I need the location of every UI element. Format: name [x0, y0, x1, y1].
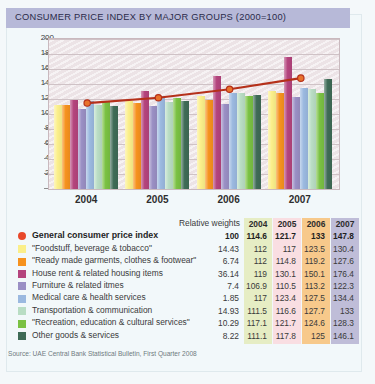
row-value-2006: 127.7 [302, 305, 330, 317]
bar-sheen [165, 102, 173, 189]
table-row: House rent & related housing items36.141… [8, 268, 352, 280]
row-value-2005: 123.4 [273, 292, 301, 304]
row-relative-weight: 10.29 [198, 317, 244, 329]
bar-sheen [181, 101, 189, 189]
row-relative-weight: 36.14 [198, 268, 244, 280]
column-header-2004: 2004 [244, 218, 272, 230]
bar-2004-series-7 [110, 106, 118, 189]
row-value-2006: 133 [302, 230, 330, 242]
table-header-row: Relative weights 2004 2005 2006 2007 [8, 218, 352, 230]
row-value-2006: 150.1 [302, 268, 330, 280]
row-value-2006: 113.2 [302, 280, 330, 292]
row-value-2005: 117 [273, 243, 301, 255]
bar-2007-series-1 [276, 93, 284, 189]
row-relative-weight: 14.93 [198, 305, 244, 317]
bar-2006-series-0 [197, 96, 205, 189]
bar-sheen [308, 89, 316, 189]
row-label: "Recreation, education & cultural servic… [32, 317, 190, 327]
bar-group-2006 [197, 39, 263, 189]
bar-2006-series-1 [205, 100, 213, 189]
bar-2005-series-5 [165, 102, 173, 189]
row-value-2006: 127.5 [302, 292, 330, 304]
bar-2006-series-6 [245, 96, 253, 189]
cpi-bar-chart: 020406080100120140160180200 200420052006… [8, 34, 350, 214]
row-value-2004: 112 [244, 255, 272, 267]
bar-2004-series-0 [54, 105, 62, 189]
bar-2006-series-3 [221, 104, 229, 189]
bar-2004-series-3 [78, 109, 86, 189]
bar-2005-series-7 [181, 101, 189, 189]
x-tick-label-2007: 2007 [270, 194, 330, 205]
row-value-2007: 133 [331, 305, 359, 317]
source-note: Source: UAE Central Bank Statistical Bul… [8, 350, 197, 357]
bar-2006-series-2 [213, 76, 221, 189]
bar-sheen [70, 100, 78, 189]
row-value-2005: 121.7 [273, 230, 301, 242]
row-value-2004: 114.6 [244, 230, 272, 242]
bar-2004-series-5 [94, 105, 102, 189]
row-label: Other goods & services [32, 330, 119, 340]
row-value-2005: 114.8 [273, 255, 301, 267]
column-header-2006: 2006 [302, 218, 330, 230]
legend-data-table: Relative weights 2004 2005 2006 2007 Gen… [8, 218, 352, 342]
bar-2005-series-0 [125, 101, 133, 189]
legend-swatch-icon [18, 232, 26, 240]
row-value-2004: 111.5 [244, 305, 272, 317]
bar-sheen [324, 79, 332, 189]
x-tick-label-2004: 2004 [56, 194, 116, 205]
row-label: Medical care & health services [32, 292, 146, 302]
row-value-2005: 117.8 [273, 330, 301, 342]
bar-group-2005 [125, 39, 191, 189]
bar-sheen [133, 103, 141, 189]
row-relative-weight: 8.22 [198, 330, 244, 342]
bar-2006-series-4 [229, 93, 237, 189]
row-relative-weight: 100 [198, 230, 244, 242]
bar-2004-series-1 [62, 105, 70, 189]
row-value-2004: 106.9 [244, 280, 272, 292]
row-value-2007: 176.4 [331, 268, 359, 280]
row-value-2007: 130.4 [331, 243, 359, 255]
bar-2005-series-2 [141, 91, 149, 189]
bar-sheen [157, 96, 165, 189]
bar-sheen [110, 106, 118, 189]
row-relative-weight: 7.4 [198, 280, 244, 292]
table-row: Furniture & related itmes7.4106.9110.511… [8, 280, 352, 292]
table-row: "Ready made garments, clothes & footwear… [8, 255, 352, 267]
bar-2007-series-3 [292, 97, 300, 189]
row-value-2007: 127.6 [331, 255, 359, 267]
bar-sheen [253, 95, 261, 189]
bar-2007-series-6 [316, 93, 324, 189]
bar-sheen [276, 93, 284, 189]
row-relative-weight: 6.74 [198, 255, 244, 267]
table-rows: General consumer price index100114.6121.… [8, 230, 352, 342]
x-tick-label-2005: 2005 [127, 194, 187, 205]
row-value-2005: 110.5 [273, 280, 301, 292]
row-label: "Ready made garments, clothes & footwear… [32, 255, 196, 265]
bar-2005-series-1 [133, 103, 141, 189]
table-row: Other goods & services8.22111.1117.81251… [8, 330, 352, 342]
row-value-2007: 146.1 [331, 330, 359, 342]
table-row: "Foodstuff, beverage & tobacco"14.431121… [8, 243, 352, 255]
bar-sheen [125, 101, 133, 189]
bar-2007-series-2 [284, 57, 292, 189]
row-value-2005: 130.1 [273, 268, 301, 280]
bar-sheen [237, 93, 245, 189]
table-row: Transportation & communication14.93111.5… [8, 305, 352, 317]
bar-sheen [173, 98, 181, 189]
table-row: Medical care & health services1.85117123… [8, 292, 352, 304]
legend-swatch-icon [18, 245, 26, 253]
plot-area [48, 38, 340, 190]
bar-2006-series-7 [253, 95, 261, 189]
bar-sheen [102, 101, 110, 189]
row-value-2007: 147.8 [331, 230, 359, 242]
bar-2007-series-4 [300, 88, 308, 189]
row-value-2004: 119 [244, 268, 272, 280]
bar-sheen [245, 96, 253, 189]
bar-group-2004 [54, 39, 120, 189]
legend-swatch-icon [18, 295, 26, 303]
row-label: House rent & related housing items [32, 268, 163, 278]
page-root: CONSUMER PRICE INDEX BY MAJOR GROUPS (20… [0, 0, 375, 384]
bar-2005-series-3 [149, 106, 157, 189]
column-header-2007: 2007 [331, 218, 359, 230]
row-value-2007: 134.4 [331, 292, 359, 304]
